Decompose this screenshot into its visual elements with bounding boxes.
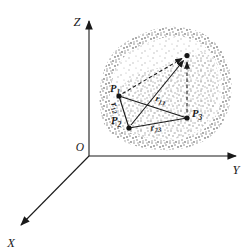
y-axis-label: Y (233, 163, 242, 177)
point-arbitrary (184, 53, 189, 58)
figure-canvas: Z Y X O P1 P2 P3 r12 r13 r23 (0, 0, 252, 252)
z-axis-label: Z (74, 15, 82, 29)
point-p2 (126, 125, 131, 130)
rigid-body-distance-diagram: Z Y X O P1 P2 P3 r12 r13 r23 (0, 0, 252, 252)
x-axis (21, 156, 89, 225)
origin-label: O (76, 141, 85, 153)
point-p3 (184, 115, 189, 120)
x-axis-label: X (6, 236, 16, 250)
